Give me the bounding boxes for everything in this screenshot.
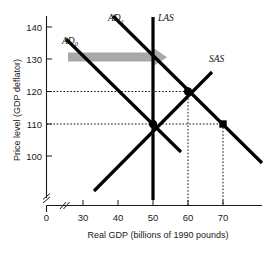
marker-equilibrium-initial (149, 120, 157, 128)
ad0-label-text: AD (61, 36, 75, 46)
ad-as-chart-svg: 140 130 120 110 100 0 30 40 50 60 70 Pri… (0, 0, 266, 253)
y-tick-label-130: 130 (26, 54, 42, 65)
ad1-label-sub: 1 (121, 18, 124, 25)
sas-label: SAS (209, 54, 225, 64)
y-tick-label-140: 140 (26, 22, 42, 33)
las-label: LAS (157, 13, 174, 23)
x-tick-label-60: 60 (183, 212, 194, 223)
marker-equilibrium-new (184, 87, 192, 95)
y-tick-label-100: 100 (26, 151, 42, 162)
x-tick-label-30: 30 (78, 212, 89, 223)
x-tick-label-50: 50 (148, 212, 159, 223)
x-tick-label-70: 70 (218, 212, 229, 223)
x-tick-label-0: 0 (44, 212, 49, 223)
y-tick-label-110: 110 (27, 119, 42, 130)
x-tick-label-40: 40 (113, 212, 124, 223)
y-axis-title: Price level (GDP deflator) (12, 59, 22, 161)
marker-point-70-110 (219, 120, 226, 127)
x-axis-title: Real GDP (billions of 1990 pounds) (88, 230, 229, 240)
ad1-label-text: AD (107, 13, 121, 23)
chart-figure: 140 130 120 110 100 0 30 40 50 60 70 Pri… (0, 0, 266, 253)
y-tick-label-120: 120 (26, 86, 42, 97)
